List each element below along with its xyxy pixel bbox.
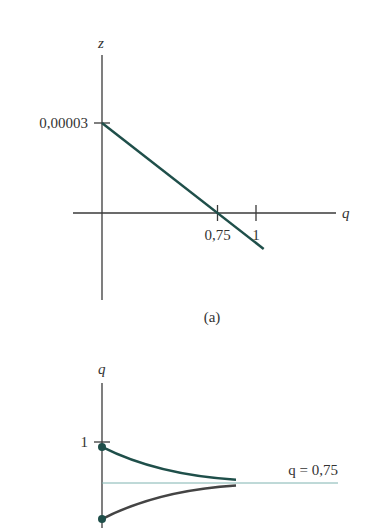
x-axis-label-a: q bbox=[342, 205, 350, 221]
panel-a: z q 0,7510,00003 (a) bbox=[39, 35, 350, 326]
x-tick-label: 0,75 bbox=[204, 227, 230, 243]
lower-trajectory bbox=[102, 485, 236, 519]
panel-label-a: (a) bbox=[204, 309, 221, 326]
panel-b: q 1 q = 0,75 bbox=[81, 361, 339, 528]
y-tick-label: 0,00003 bbox=[39, 115, 88, 131]
upper-start-point bbox=[98, 443, 106, 451]
y-axis-label-a: z bbox=[97, 35, 104, 51]
reference-line-label: q = 0,75 bbox=[288, 462, 338, 478]
upper-trajectory bbox=[102, 447, 236, 480]
y-axis-label-b: q bbox=[98, 361, 106, 377]
z-line bbox=[102, 123, 264, 249]
y-tick-label-b: 1 bbox=[81, 434, 89, 450]
figure: z q 0,7510,00003 (a) q 1 q = 0,75 bbox=[0, 0, 378, 528]
lower-start-point bbox=[98, 515, 106, 523]
